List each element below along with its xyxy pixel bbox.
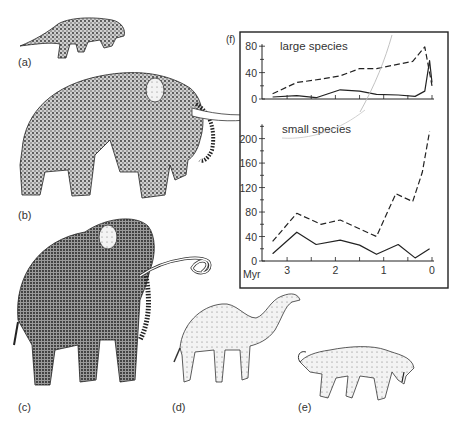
- y-tick-label: 80: [245, 206, 257, 218]
- x-tick-label: 1: [381, 264, 387, 276]
- y-tick-label: 200: [239, 133, 257, 145]
- figure: (a) (b) (c) (d) (e) (f) 04080 0408012016…: [0, 0, 454, 427]
- y-tick-label: 40: [245, 67, 257, 79]
- y-tick-label: 80: [245, 40, 257, 52]
- y-tick-label: 0: [251, 255, 257, 267]
- x-tick-label: 3: [284, 264, 290, 276]
- small-species-title: small species: [282, 123, 351, 135]
- chart-frame: [240, 32, 448, 288]
- y-tick-label: 0: [251, 93, 257, 105]
- x-tick-label: 2: [332, 264, 338, 276]
- y-tick-label: 120: [239, 182, 257, 194]
- x-tick-label: 0: [429, 264, 435, 276]
- y-tick-label: 160: [239, 157, 257, 169]
- chart-f: 04080 040801201602003210 large species s…: [0, 0, 454, 427]
- x-axis-label: Myr: [243, 268, 261, 280]
- large-species-title: large species: [280, 40, 348, 52]
- y-tick-label: 40: [245, 231, 257, 243]
